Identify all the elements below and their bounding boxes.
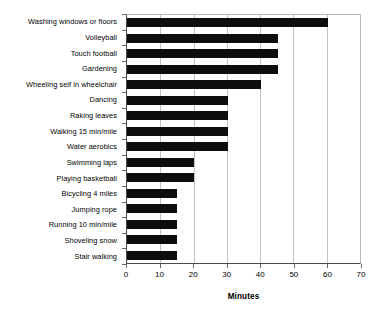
bar-row: [127, 155, 360, 171]
x-axis-tick-label: 50: [289, 269, 298, 280]
x-axis-tick-label: 10: [155, 269, 164, 280]
plot-area: [126, 14, 361, 264]
bar: [127, 18, 328, 27]
category-label: Jumping rope: [72, 205, 117, 214]
bar-chart: Washing windows or floorsVolleyballTouch…: [0, 0, 385, 316]
bar-row: [127, 31, 360, 47]
category-label: Playing basketball: [57, 174, 117, 183]
bar: [127, 34, 278, 43]
category-label-row: Touch football: [0, 45, 122, 61]
x-axis-tick-label: 0: [124, 269, 128, 280]
bar: [127, 235, 177, 244]
bar-row: [127, 232, 360, 248]
bars-layer: [127, 15, 360, 263]
bar: [127, 96, 228, 105]
bar: [127, 251, 177, 260]
bar: [127, 111, 228, 120]
category-label-row: Volleyball: [0, 30, 122, 46]
x-axis-tick-label: 70: [357, 269, 366, 280]
bar: [127, 220, 177, 229]
bar-row: [127, 93, 360, 109]
category-label-row: Gardening: [0, 61, 122, 77]
bar-row: [127, 77, 360, 93]
bar-row: [127, 248, 360, 264]
x-axis-tick: [294, 264, 295, 268]
category-label: Walking 15 min/mile: [50, 127, 117, 136]
category-label-row: Swimming laps: [0, 155, 122, 171]
category-label-row: Washing windows or floors: [0, 14, 122, 30]
bar-row: [127, 62, 360, 78]
bar-row: [127, 15, 360, 31]
bar: [127, 49, 278, 58]
category-label-row: Shoveling snow: [0, 233, 122, 249]
category-label: Volleyball: [85, 33, 117, 42]
x-axis-tick: [227, 264, 228, 268]
category-label: Raking leaves: [70, 111, 117, 120]
category-label-row: Dancing: [0, 92, 122, 108]
category-label-row: Jumping rope: [0, 202, 122, 218]
x-axis-tick-label: 20: [189, 269, 198, 280]
bar-row: [127, 217, 360, 233]
category-label: Touch football: [71, 49, 117, 58]
category-label: Swimming laps: [67, 158, 117, 167]
category-label-row: Wheeling self in wheelchair: [0, 77, 122, 93]
category-label-row: Playing basketball: [0, 170, 122, 186]
category-label: Bicycling 4 miles: [62, 189, 117, 198]
category-label: Washing windows or floors: [28, 17, 117, 26]
x-axis-tick-label: 40: [256, 269, 265, 280]
x-axis-tick-label: 60: [323, 269, 332, 280]
x-axis-title: Minutes: [126, 292, 361, 301]
category-label: Shoveling snow: [65, 236, 117, 245]
category-label-row: Running 10 min/mile: [0, 217, 122, 233]
category-label-row: Raking leaves: [0, 108, 122, 124]
bar-row: [127, 108, 360, 124]
category-label-row: Stair walking: [0, 248, 122, 264]
bar: [127, 65, 278, 74]
bar: [127, 142, 228, 151]
bar: [127, 158, 194, 167]
category-label: Wheeling self in wheelchair: [26, 80, 117, 89]
bar-row: [127, 201, 360, 217]
x-axis-tick: [126, 264, 127, 268]
x-axis-tick-label: 30: [222, 269, 231, 280]
x-axis-tick: [361, 264, 362, 268]
bar-row: [127, 124, 360, 140]
bar: [127, 204, 177, 213]
x-axis-tick: [260, 264, 261, 268]
x-axis-tick: [160, 264, 161, 268]
bar-row: [127, 186, 360, 202]
bar: [127, 127, 228, 136]
category-label: Running 10 min/mile: [49, 220, 117, 229]
bar-row: [127, 139, 360, 155]
bar: [127, 80, 261, 89]
x-axis-tick-labels: 010203040506070: [126, 269, 361, 283]
bar-row: [127, 46, 360, 62]
category-label-row: Walking 15 min/mile: [0, 123, 122, 139]
bar-row: [127, 170, 360, 186]
category-label: Gardening: [82, 64, 117, 73]
category-label-row: Bicycling 4 miles: [0, 186, 122, 202]
x-axis-tick: [327, 264, 328, 268]
category-label: Dancing: [90, 95, 117, 104]
category-label: Stair walking: [74, 252, 117, 261]
category-label-row: Water aerobics: [0, 139, 122, 155]
bar: [127, 173, 194, 182]
category-axis: Washing windows or floorsVolleyballTouch…: [0, 14, 122, 264]
category-label: Water aerobics: [67, 142, 117, 151]
x-axis-tick: [193, 264, 194, 268]
bar: [127, 189, 177, 198]
